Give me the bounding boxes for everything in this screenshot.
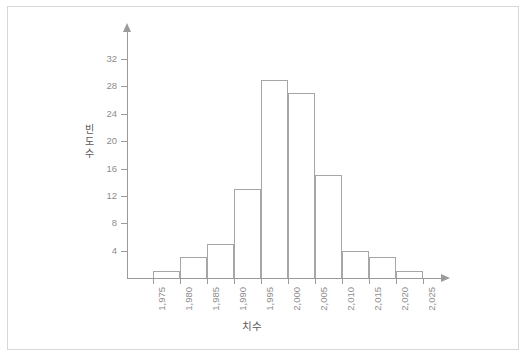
x-tick-label: 2,000 (292, 287, 302, 311)
histogram-bar (180, 257, 207, 278)
x-tick-mark (207, 278, 208, 284)
x-axis-arrow-icon (441, 274, 450, 282)
y-tick-mark (121, 251, 127, 252)
y-axis-title-char-2: 수 (82, 148, 96, 160)
y-tick-label: 8 (95, 218, 117, 228)
histogram-bar (153, 271, 180, 278)
histogram-bar (396, 271, 423, 278)
x-tick-label: 2,020 (400, 287, 410, 311)
x-tick-label: 1,995 (265, 287, 275, 311)
y-tick-mark (121, 141, 127, 142)
y-tick-mark (121, 114, 127, 115)
y-tick-label: 12 (95, 191, 117, 201)
y-tick-mark (121, 59, 127, 60)
y-axis-line (127, 30, 128, 279)
y-tick-mark (121, 196, 127, 197)
histogram-bar (261, 80, 288, 278)
x-tick-label: 1,985 (211, 287, 221, 311)
y-tick-label: 16 (95, 164, 117, 174)
histogram-bar (315, 175, 342, 278)
x-tick-mark (288, 278, 289, 284)
histogram-bar (288, 93, 315, 278)
x-axis-title: 치수 (242, 318, 262, 333)
x-tick-label: 1,990 (238, 287, 248, 311)
y-tick-mark (121, 86, 127, 87)
x-tick-label: 2,005 (319, 287, 329, 311)
x-tick-mark (234, 278, 235, 284)
y-axis-title: 빈 도 수 (82, 124, 96, 159)
histogram-bar (369, 257, 396, 278)
y-tick-label: 20 (95, 136, 117, 146)
y-axis-title-char-1: 도 (82, 136, 96, 148)
x-tick-label: 2,015 (373, 287, 383, 311)
histogram-bar (234, 189, 261, 278)
histogram-bar (342, 251, 369, 278)
y-tick-label: 28 (95, 81, 117, 91)
x-tick-mark (153, 278, 154, 284)
x-tick-label: 2,010 (346, 287, 356, 311)
x-tick-label: 1,980 (184, 287, 194, 311)
y-tick-label: 24 (95, 109, 117, 119)
x-tick-mark (369, 278, 370, 284)
y-axis-title-char-0: 빈 (82, 124, 96, 136)
x-tick-mark (342, 278, 343, 284)
x-tick-mark (180, 278, 181, 284)
y-tick-mark (121, 169, 127, 170)
x-tick-mark (315, 278, 316, 284)
y-tick-mark (121, 223, 127, 224)
histogram-chart: 빈 도 수 48121620242832 1,9751,9801,9851,99… (0, 0, 526, 357)
x-tick-mark (261, 278, 262, 284)
x-axis-line (127, 278, 442, 279)
histogram-bar (207, 244, 234, 278)
y-tick-label: 4 (95, 246, 117, 256)
x-tick-label: 1,975 (157, 287, 167, 311)
x-tick-label: 2,025 (427, 287, 437, 311)
x-tick-mark (423, 278, 424, 284)
y-axis-arrow-icon (123, 23, 131, 32)
y-tick-label: 32 (95, 54, 117, 64)
x-tick-mark (396, 278, 397, 284)
